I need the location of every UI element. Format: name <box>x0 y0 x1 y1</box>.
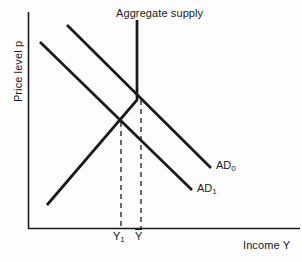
y-axis-label: Price level p <box>13 30 24 114</box>
ad1-label: AD1 <box>197 183 217 194</box>
x-tick-label-y1: Y1 <box>113 231 125 242</box>
ybar-label-text: Y <box>135 231 142 242</box>
diagram-canvas <box>0 0 302 262</box>
ad0-label: AD0 <box>216 160 236 171</box>
ad1-label-subscript: 1 <box>212 187 216 196</box>
ad1-curve <box>40 42 192 190</box>
y1-label-subscript: 1 <box>120 235 124 244</box>
ad0-curve <box>67 25 211 168</box>
ad1-label-text: AD <box>197 182 212 194</box>
ad1-path <box>40 42 192 190</box>
x-tick-label-ybar: Y <box>135 231 142 242</box>
aggregate-supply-path <box>47 20 137 205</box>
ad0-label-subscript: 0 <box>231 164 235 173</box>
aggregate-supply-demand-diagram: Aggregate supply Price level p Income Y … <box>0 0 302 262</box>
ad0-path <box>67 25 211 168</box>
aggregate-supply-label: Aggregate supply <box>116 8 203 19</box>
aggregate-supply-curve <box>47 20 137 205</box>
ad0-label-text: AD <box>216 159 231 171</box>
x-axis-label: Income Y <box>243 240 290 251</box>
equilibrium-drop-lines <box>121 100 141 228</box>
